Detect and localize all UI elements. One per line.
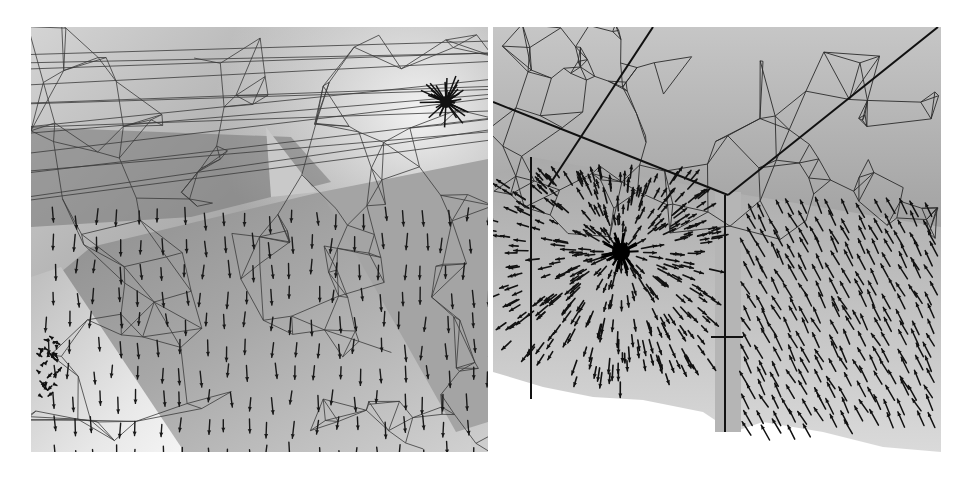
- right-scene: [493, 27, 941, 452]
- left-panel-svg: [31, 27, 488, 452]
- right-panel-mesh-render: [493, 27, 941, 452]
- left-panel-mesh-render: [31, 27, 488, 452]
- left-scene: [31, 27, 488, 452]
- right-panel-svg: [493, 27, 941, 452]
